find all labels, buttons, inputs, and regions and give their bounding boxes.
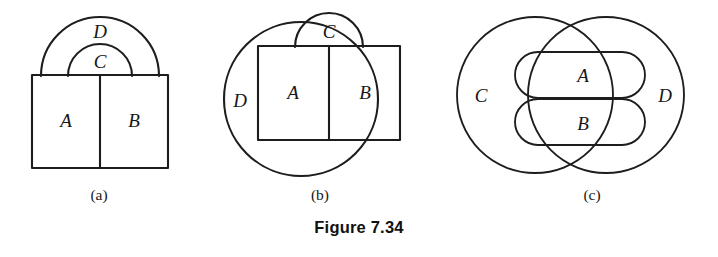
- panel-c-label-a: A: [575, 65, 589, 86]
- figure-caption: Figure 7.34: [0, 218, 718, 237]
- panel-b-label-c: C: [323, 21, 336, 42]
- panel-a-label-d: D: [92, 21, 107, 42]
- panel-c-label-d: D: [657, 85, 672, 106]
- panel-b-diagram: A B C D: [224, 13, 400, 176]
- panel-a-label-a: A: [58, 110, 72, 131]
- panel-c-label-c: C: [475, 85, 488, 106]
- panel-b-label-d: D: [232, 90, 247, 111]
- panel-b-label-b: B: [359, 82, 371, 103]
- panel-a-diagram: A B C D: [32, 17, 168, 168]
- panel-c-label-b: B: [577, 113, 589, 134]
- figure-container: A B C D A B C D: [0, 0, 718, 257]
- panel-b-label-a: A: [285, 82, 299, 103]
- panel-a-label-c: C: [94, 51, 107, 72]
- panel-b-caption: (b): [311, 186, 329, 204]
- panel-a-label-b: B: [128, 110, 140, 131]
- panel-c-caption: (c): [583, 186, 600, 204]
- panel-c-diagram: A B C D: [457, 17, 684, 173]
- panel-a-caption: (a): [90, 186, 107, 204]
